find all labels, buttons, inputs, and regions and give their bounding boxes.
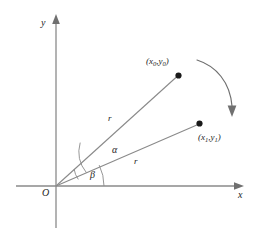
initial-point-y-subscript: 0: [163, 60, 166, 67]
rotated-point-y-subscript: 1: [215, 136, 218, 143]
origin-label: O: [42, 188, 49, 198]
rotated-point-x-subscript: 1: [205, 136, 208, 143]
initial-point-dot: [175, 72, 181, 78]
initial-point-x-subscript: 0: [153, 60, 156, 67]
rotated-point-label: (x1,y1): [198, 133, 221, 142]
initial-point-paren-close: ): [166, 56, 169, 66]
initial-point-y: y: [159, 56, 163, 66]
ray-to-rotated-point: [56, 125, 198, 187]
rotated-point-y: y: [211, 132, 215, 142]
y-axis-arrowhead: [52, 14, 60, 24]
upper-radius-label: r: [108, 114, 112, 123]
alpha-arc: [79, 143, 87, 173]
rotated-point-paren-close: ): [218, 132, 221, 142]
beta-angle-label: β: [90, 170, 95, 180]
beta-arc: [99, 165, 104, 186]
y-axis-label: y: [41, 18, 45, 28]
lower-radius-label: r: [134, 157, 138, 166]
alpha-angle-label: α: [112, 145, 117, 155]
rotated-point-dot: [196, 120, 202, 126]
rotation-arrow-curve: [197, 60, 232, 106]
rotation-diagram: y x O (x0,y0) (x1,y1) r r α β: [0, 0, 262, 241]
diagram-canvas: [0, 0, 262, 241]
initial-point-label: (x0,y0): [146, 57, 169, 66]
rotation-arrow-head: [228, 106, 237, 117]
x-axis-label: x: [238, 190, 242, 200]
